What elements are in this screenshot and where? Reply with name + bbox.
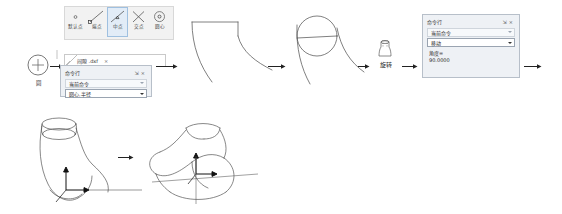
close-icon[interactable]: × xyxy=(141,70,147,76)
current-command-field[interactable]: 当前命令 xyxy=(65,79,147,88)
current-command-label: 当前命令 xyxy=(431,29,451,36)
chevron-down-icon[interactable] xyxy=(140,82,144,84)
rotate-step-glyph xyxy=(374,38,396,60)
command-value-dropdown[interactable]: 圆心,半径 xyxy=(65,89,147,98)
tab-title: 间隙 .dxf xyxy=(77,57,98,64)
flow-arrow-4 xyxy=(358,63,370,70)
command-panel-titlebar: 命令行 ⇲× xyxy=(63,68,149,77)
profile-curve-drawing xyxy=(186,6,286,86)
command-panel-window-buttons[interactable]: ⇲× xyxy=(503,19,515,25)
snap-endpoint-icon xyxy=(87,9,106,24)
snap-button-label: 圆心 xyxy=(155,25,165,30)
rotate-step-label: 旋转 xyxy=(374,60,398,69)
flow-arrow-5 xyxy=(402,63,418,70)
chevron-down-icon[interactable] xyxy=(508,31,512,33)
command-panel-title: 命令行 xyxy=(65,69,80,76)
current-command-field[interactable]: 当前命令 xyxy=(427,28,515,37)
solid-preview-icon xyxy=(374,38,396,60)
command-panel-titlebar: 命令行 ⇲× xyxy=(425,17,517,26)
flow-arrow-6 xyxy=(524,63,542,70)
sketch-circle-on-curve xyxy=(288,6,372,88)
angle-value[interactable]: 90.0000 xyxy=(425,57,517,63)
flow-arrow-3 xyxy=(268,63,286,70)
flow-arrow-7 xyxy=(118,154,134,161)
angle-label: 角度= xyxy=(425,49,517,56)
swept-solid-before-drawing xyxy=(34,112,144,210)
snap-button-label: 交点 xyxy=(134,25,144,30)
snap-button-endpoint[interactable]: 端点 xyxy=(86,7,107,37)
sketch-profile-curve xyxy=(186,6,286,86)
chevron-down-icon[interactable] xyxy=(140,93,144,95)
chevron-down-icon[interactable] xyxy=(508,42,512,44)
command-panel-title: 命令行 xyxy=(427,18,442,25)
command-value-dropdown[interactable]: 移动 xyxy=(427,38,515,47)
snap-point-icon xyxy=(66,9,85,24)
snap-button-label: 中点 xyxy=(113,25,123,30)
snap-intersection-icon xyxy=(129,9,148,24)
close-icon[interactable]: × xyxy=(509,19,515,25)
command-panel-circle[interactable]: 命令行 ⇲× 当前命令 圆心,半径 xyxy=(60,65,152,97)
command-panel-window-buttons[interactable]: ⇲× xyxy=(135,70,147,76)
command-value-label: 圆心,半径 xyxy=(69,90,91,97)
snap-button-default-point[interactable]: 默认点 xyxy=(65,7,86,37)
circle-tool-label: 圆 xyxy=(28,79,48,87)
flow-arrow-2 xyxy=(156,63,178,70)
sketch-swept-solid-before xyxy=(34,112,144,210)
current-command-label: 当前命令 xyxy=(69,80,89,87)
command-value-label: 移动 xyxy=(431,39,441,46)
sketch-swept-solid-after xyxy=(140,112,260,208)
snap-button-label: 默认点 xyxy=(68,25,83,30)
tab-close-icon[interactable]: × xyxy=(104,58,108,64)
command-panel-rotate[interactable]: 命令行 ⇲× 当前命令 移动 角度= 90.0000 xyxy=(422,14,520,78)
snap-center-icon xyxy=(150,9,169,24)
snap-button-midpoint[interactable]: 中点 xyxy=(107,7,128,37)
circle-on-curve-drawing xyxy=(288,6,372,88)
snap-button-label: 端点 xyxy=(92,25,102,30)
swept-solid-after-drawing xyxy=(140,112,260,208)
snap-midpoint-icon xyxy=(108,9,127,24)
snap-button-center[interactable]: 圆心 xyxy=(149,7,170,37)
object-snap-toolbar[interactable]: 默认点 端点 中点 交点 圆心 xyxy=(64,6,174,40)
connector-tick-1 xyxy=(54,50,60,62)
snap-button-intersection[interactable]: 交点 xyxy=(128,7,149,37)
